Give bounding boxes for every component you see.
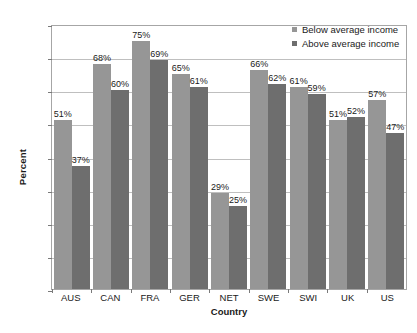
bar-group: 51%52% xyxy=(327,26,366,289)
bar-wrapper: 75% xyxy=(132,41,150,289)
bar-wrapper: 51% xyxy=(329,120,347,289)
bar-wrapper: 57% xyxy=(368,100,386,289)
bar-value-label: 47% xyxy=(386,123,404,132)
bar[interactable]: 51% xyxy=(54,120,72,289)
bar-wrapper: 29% xyxy=(211,193,229,289)
bar-value-label: 66% xyxy=(250,60,268,69)
bar[interactable]: 52% xyxy=(347,117,365,289)
bar-groups: 51%37%68%60%75%69%65%61%29%25%66%62%61%5… xyxy=(52,26,406,289)
bar-wrapper: 66% xyxy=(250,70,268,289)
bar-value-label: 59% xyxy=(308,84,326,93)
bar-wrapper: 60% xyxy=(111,90,129,289)
bar[interactable]: 75% xyxy=(132,41,150,289)
bar-value-label: 52% xyxy=(347,107,365,116)
legend: Below average incomeAbove average income xyxy=(292,22,399,50)
bar-wrapper: 62% xyxy=(268,84,286,289)
x-axis-tick-label: UK xyxy=(328,292,368,303)
x-axis-tick-label: SWE xyxy=(249,292,289,303)
legend-swatch-icon xyxy=(292,41,297,46)
bar-value-label: 57% xyxy=(368,90,386,99)
bar[interactable]: 51% xyxy=(329,120,347,289)
bar-wrapper: 51% xyxy=(54,120,72,289)
legend-label: Above average income xyxy=(302,38,399,49)
x-axis-tick-label: US xyxy=(368,292,408,303)
bar-value-label: 51% xyxy=(54,110,72,119)
bar-wrapper: 65% xyxy=(172,74,190,289)
bar-value-label: 60% xyxy=(111,80,129,89)
bar[interactable]: 37% xyxy=(72,166,90,289)
bar-value-label: 65% xyxy=(172,64,190,73)
bar-chart: Percent 51%37%68%60%75%69%65%61%29%25%66… xyxy=(0,0,417,333)
bar-group: 68%60% xyxy=(91,26,130,289)
bar[interactable]: 59% xyxy=(308,94,326,289)
bar-wrapper: 61% xyxy=(190,87,208,289)
bar-wrapper: 68% xyxy=(93,64,111,289)
bar[interactable]: 61% xyxy=(290,87,308,289)
legend-label: Below average income xyxy=(302,24,398,35)
bar-value-label: 51% xyxy=(329,110,347,119)
bar[interactable]: 57% xyxy=(368,100,386,289)
bar-group: 29%25% xyxy=(209,26,248,289)
x-axis-tick-label: GER xyxy=(170,292,210,303)
bar[interactable]: 66% xyxy=(250,70,268,289)
bar[interactable]: 47% xyxy=(386,133,404,289)
bar[interactable]: 60% xyxy=(111,90,129,289)
bar-value-label: 25% xyxy=(229,196,247,205)
bar-wrapper: 52% xyxy=(347,117,365,289)
bar-wrapper: 59% xyxy=(308,94,326,289)
legend-item[interactable]: Above average income xyxy=(292,36,399,50)
bar[interactable]: 25% xyxy=(229,206,247,289)
bar-wrapper: 47% xyxy=(386,133,404,289)
bar-wrapper: 25% xyxy=(229,206,247,289)
x-axis-tick-label: SWI xyxy=(288,292,328,303)
bar-group: 57%47% xyxy=(367,26,406,289)
bar-value-label: 29% xyxy=(211,183,229,192)
bar-group: 65%61% xyxy=(170,26,209,289)
bar-group: 51%37% xyxy=(52,26,91,289)
bar[interactable]: 65% xyxy=(172,74,190,289)
bar-wrapper: 61% xyxy=(290,87,308,289)
y-axis-title: Percent xyxy=(17,148,28,184)
plot-area: 51%37%68%60%75%69%65%61%29%25%66%62%61%5… xyxy=(51,25,407,290)
x-axis-tick-label: NET xyxy=(209,292,249,303)
legend-item[interactable]: Below average income xyxy=(292,22,399,36)
x-axis-tick-labels: AUSCANFRAGERNETSWESWIUKUS xyxy=(51,292,407,303)
bar-wrapper: 69% xyxy=(150,60,168,289)
bar-value-label: 69% xyxy=(150,50,168,59)
bar[interactable]: 68% xyxy=(93,64,111,289)
legend-swatch-icon xyxy=(292,27,297,32)
bar-value-label: 61% xyxy=(190,77,208,86)
x-axis-title: Country xyxy=(51,306,407,317)
bar-group: 61%59% xyxy=(288,26,327,289)
x-axis-tick-label: FRA xyxy=(130,292,170,303)
bar[interactable]: 29% xyxy=(211,193,229,289)
bar-value-label: 62% xyxy=(268,74,286,83)
bar[interactable]: 62% xyxy=(268,84,286,289)
bar-value-label: 68% xyxy=(93,54,111,63)
bar-wrapper: 37% xyxy=(72,166,90,289)
bar-group: 75%69% xyxy=(131,26,170,289)
bar[interactable]: 69% xyxy=(150,60,168,289)
x-axis-tick-label: AUS xyxy=(51,292,91,303)
x-axis-tick-label: CAN xyxy=(91,292,131,303)
bar-value-label: 75% xyxy=(132,31,150,40)
bar-value-label: 61% xyxy=(290,77,308,86)
bar-value-label: 37% xyxy=(72,156,90,165)
bar-group: 66%62% xyxy=(249,26,288,289)
bar[interactable]: 61% xyxy=(190,87,208,289)
